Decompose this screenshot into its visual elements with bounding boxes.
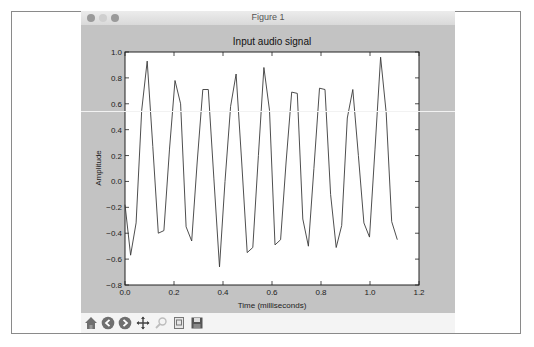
y-tick-label: 0.2 — [111, 152, 123, 161]
x-tick-label: 0.2 — [168, 288, 180, 297]
y-tick-label: 0.0 — [111, 177, 123, 186]
y-tick-label: 0.6 — [111, 100, 123, 109]
figure-canvas[interactable]: Input audio signal 1.00.80.60.40.20.0−0.… — [81, 25, 455, 313]
chart-title: Input audio signal — [233, 36, 311, 47]
arrow-left-icon — [101, 316, 115, 330]
x-tick-label: 0.6 — [266, 288, 278, 297]
save-button[interactable] — [189, 315, 204, 330]
window-title: Figure 1 — [81, 12, 455, 22]
x-tick-label: 0.8 — [315, 288, 327, 297]
configure-subplots-button[interactable] — [171, 315, 186, 330]
back-button[interactable] — [100, 315, 115, 330]
y-tick-label: 0.4 — [111, 126, 123, 135]
pan-button[interactable] — [135, 315, 150, 330]
scan-artifact-line — [81, 111, 455, 112]
navigation-toolbar — [81, 313, 455, 333]
arrow-right-icon — [118, 316, 132, 330]
x-tick-label: 1.0 — [364, 288, 376, 297]
subplots-icon — [172, 316, 186, 330]
y-tick-label: −0.4 — [106, 229, 122, 238]
save-disk-icon — [190, 316, 204, 330]
home-button[interactable] — [83, 315, 98, 330]
zoom-rect-icon — [154, 316, 168, 330]
y-axis-label: Amplitude — [94, 150, 103, 186]
y-tick-label: −0.2 — [106, 203, 122, 212]
x-tick-label: 1.2 — [413, 288, 425, 297]
x-axis-label: Time (milliseconds) — [238, 301, 307, 310]
home-icon — [84, 316, 98, 330]
y-tick-label: −0.6 — [106, 255, 122, 264]
title-bar[interactable]: Figure 1 — [81, 11, 455, 26]
line-chart: Input audio signal 1.00.80.60.40.20.0−0.… — [81, 25, 455, 313]
x-tick-label: 0.0 — [119, 288, 131, 297]
y-tick-label: 0.8 — [111, 74, 123, 83]
pan-move-icon — [136, 316, 150, 330]
forward-button[interactable] — [117, 315, 132, 330]
y-tick-label: 1.0 — [111, 48, 123, 57]
x-tick-label: 0.4 — [217, 288, 229, 297]
figure-window: Figure 1 Input audio signal 1.00.80.60.4… — [81, 11, 455, 333]
zoom-rect-button[interactable] — [153, 315, 168, 330]
